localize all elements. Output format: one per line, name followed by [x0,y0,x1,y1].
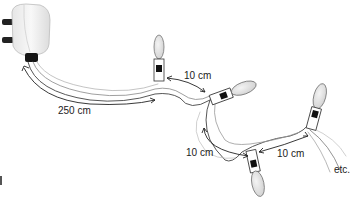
bulb-2 [209,78,258,106]
label-etc: etc. [334,164,350,175]
light-string-diagram: 250 cm 10 cm 10 cm 10 cm etc. [0,0,354,206]
label-10cm-2: 10 cm [186,147,213,158]
plug-icon [2,4,50,62]
edge-mark [0,176,2,185]
label-250cm: 250 cm [58,105,91,116]
bulb-4 [305,82,329,131]
bulb-3 [245,149,267,197]
label-10cm-1: 10 cm [184,70,211,81]
label-10cm-3: 10 cm [277,148,304,159]
bulb-1 [154,35,164,81]
